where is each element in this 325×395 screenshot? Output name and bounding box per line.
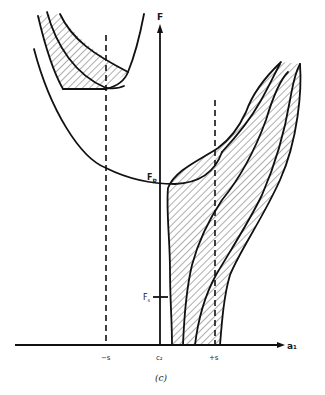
y-axis-label: F — [157, 12, 163, 22]
upper-left-hatched-region — [38, 12, 144, 89]
diagram-figure: F a₁ −s c₂ +s Fp Fs (c) — [0, 0, 325, 395]
x-axis-label: a₁ — [287, 341, 297, 351]
tick-label-plus-s: +s — [209, 354, 219, 362]
figure-caption: (c) — [155, 373, 168, 383]
y-axis-arrow-icon — [157, 24, 163, 33]
tick-label-c2: c₂ — [156, 354, 163, 362]
x-axis-arrow-icon — [277, 342, 285, 348]
lower-right-hatched-region — [167, 62, 300, 345]
tick-label-minus-s: −s — [101, 354, 111, 362]
fs-label: Fs — [143, 293, 151, 303]
